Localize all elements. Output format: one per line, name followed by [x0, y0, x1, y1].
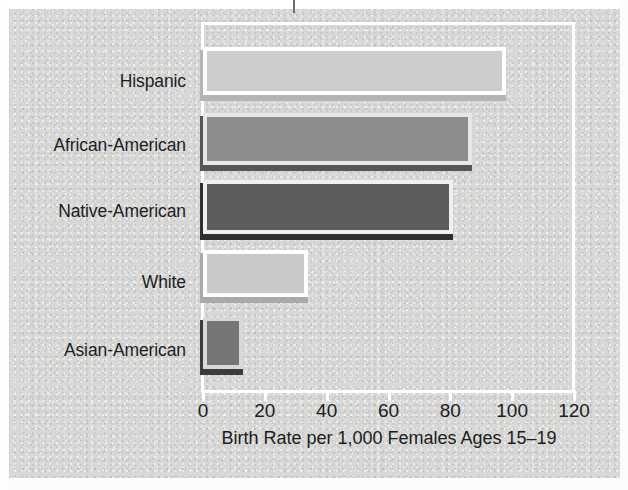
category-label-asian-american: Asian-American	[0, 340, 186, 361]
category-label-african-american: African-American	[0, 135, 186, 156]
chart-figure: Hispanic African-American Native-America…	[0, 0, 628, 490]
axis-tick-label-120: 120	[558, 400, 590, 422]
page-edge-top	[0, 0, 628, 9]
axis-tick-label-100: 100	[496, 400, 528, 422]
bar-white	[203, 250, 308, 297]
crop-mark-icon	[293, 0, 295, 13]
category-label-native-american: Native-American	[0, 201, 186, 222]
bar-fill-native-american	[207, 184, 449, 230]
axis-tick-label-20: 20	[254, 400, 275, 422]
axis-tick-label-80: 80	[440, 400, 461, 422]
x-axis-title: Birth Rate per 1,000 Females Ages 15–19	[201, 428, 577, 449]
page-edge-bottom	[0, 478, 628, 490]
bar-hispanic	[203, 47, 506, 95]
bar-fill-white	[207, 254, 304, 293]
bar-native-american	[203, 180, 453, 234]
bar-african-american	[203, 113, 472, 165]
bar-fill-african-american	[207, 117, 468, 161]
category-label-hispanic: Hispanic	[0, 71, 186, 92]
axis-tick-label-40: 40	[316, 400, 337, 422]
bar-asian-american	[203, 317, 243, 369]
bar-fill-hispanic	[207, 51, 502, 91]
category-label-white: White	[0, 272, 186, 293]
axis-tick-label-0: 0	[198, 400, 209, 422]
axis-tick-label-60: 60	[378, 400, 399, 422]
bar-fill-asian-american	[207, 321, 239, 365]
page-edge-right	[620, 0, 628, 490]
